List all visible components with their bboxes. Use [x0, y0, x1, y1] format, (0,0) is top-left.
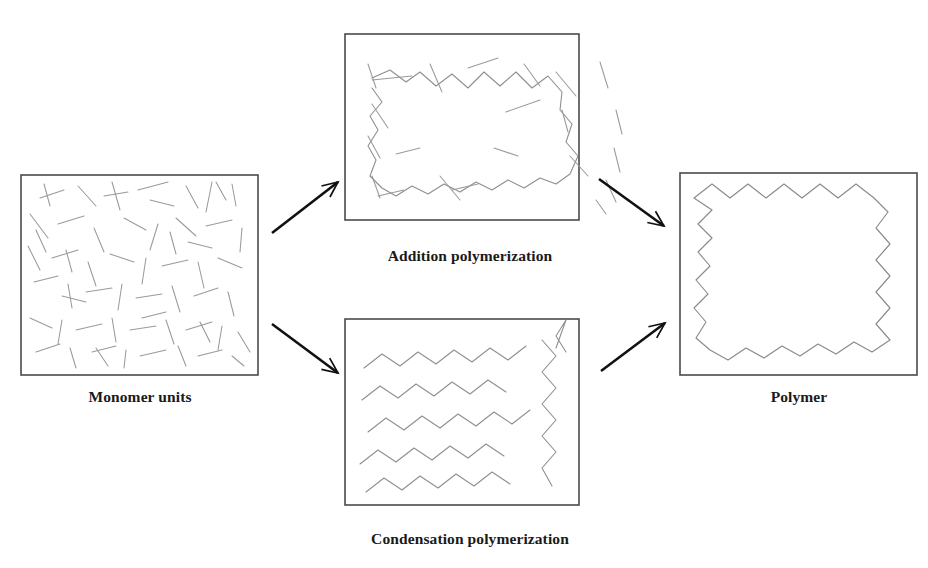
caption-polymer: Polymer — [680, 388, 918, 406]
polymerization-diagram: ng ly Monomer units Addition polymerizat… — [0, 0, 928, 568]
arrow-monomer-to-addition — [272, 182, 338, 233]
caption-monomer-units: Monomer units — [21, 388, 259, 406]
panel-frame-condensation-polymerization — [345, 319, 579, 505]
arrow-addition-to-polymer — [599, 179, 664, 226]
addition-free-monomer — [596, 200, 606, 214]
caption-condensation-polymerization: Condensation polymerization — [310, 530, 630, 548]
panel-frame-polymer — [680, 173, 917, 375]
arrow-shaft — [601, 323, 665, 371]
arrow-shaft — [599, 179, 664, 226]
addition-free-monomer — [616, 110, 622, 134]
diagram-canvas — [0, 0, 928, 568]
panel-boxes-group — [21, 34, 917, 505]
addition-free-monomer — [600, 62, 608, 88]
addition-free-monomer — [614, 148, 620, 172]
arrow-condensation-to-polymer — [601, 323, 665, 371]
arrow-shaft — [272, 182, 338, 233]
arrow-monomer-to-condensation — [272, 324, 338, 373]
arrow-shaft — [272, 324, 338, 373]
panel-frame-addition-polymerization — [345, 34, 579, 220]
caption-addition-polymerization: Addition polymerization — [330, 247, 610, 265]
